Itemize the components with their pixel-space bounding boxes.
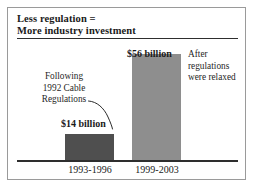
value-label-1993-1996: $14 billion bbox=[61, 118, 106, 129]
chart-frame: Less regulation = More industry investme… bbox=[7, 7, 246, 180]
category-label-1993-1996: 1993-1996 bbox=[58, 164, 122, 175]
value-label-1999-2003: $56 billion bbox=[127, 48, 172, 59]
category-label-1999-2003: 1999-2003 bbox=[125, 164, 189, 175]
bars-layer bbox=[8, 8, 255, 160]
plot-area: Less regulation = More industry investme… bbox=[8, 8, 245, 179]
infographic-bar-chart: Less regulation = More industry investme… bbox=[0, 0, 255, 189]
bar-1993-1996 bbox=[65, 134, 114, 161]
axis-baseline bbox=[17, 160, 238, 162]
bar-1999-2003 bbox=[132, 54, 181, 160]
